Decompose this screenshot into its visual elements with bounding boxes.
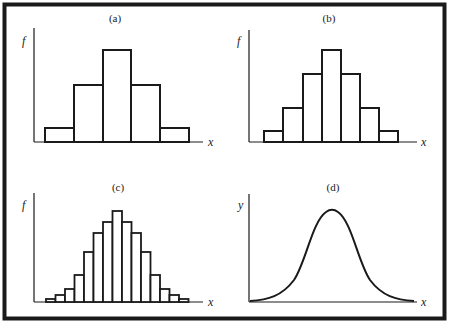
panel-d-xlabel: x (420, 295, 427, 309)
panel-b: (b) f x (237, 12, 427, 149)
histogram-bar (264, 131, 283, 142)
panel-b-bars (264, 50, 398, 142)
histogram-bar (141, 252, 151, 302)
panel-a-xlabel: x (207, 135, 214, 149)
histogram-bar (322, 50, 341, 142)
histogram-bar (131, 85, 160, 142)
figure-canvas: (a) f x (b) f x (c) f x (0, 0, 450, 325)
panel-b-ylabel: f (237, 34, 242, 48)
panel-a-title: (a) (109, 12, 122, 25)
panel-d-ylabel: y (237, 198, 244, 212)
panel-a: (a) f x (22, 12, 214, 149)
panel-b-xlabel: x (420, 135, 427, 149)
histogram-bar (283, 108, 303, 142)
histogram-bar (160, 289, 170, 302)
figure-frame (5, 5, 445, 319)
histogram-bar (46, 299, 56, 302)
histogram-bar (160, 128, 189, 142)
histogram-bar (341, 74, 360, 142)
histogram-bar (379, 131, 398, 142)
histogram-bar (74, 85, 103, 142)
histogram-bar (360, 108, 379, 142)
histogram-bar (151, 275, 161, 302)
panel-d: (d) y x (237, 181, 427, 309)
histogram-bar (65, 289, 75, 302)
histogram-bar (170, 295, 180, 302)
histogram-bar (94, 233, 104, 302)
histogram-bar (103, 50, 131, 142)
panel-c-ylabel: f (22, 198, 27, 212)
bell-curve (250, 210, 414, 301)
panel-c: (c) f x (22, 181, 214, 309)
histogram-bar (56, 295, 66, 302)
panel-a-bars (45, 50, 189, 142)
histogram-bar (179, 299, 189, 302)
panel-a-ylabel: f (22, 34, 27, 48)
panel-c-title: (c) (112, 181, 125, 194)
histogram-bar (75, 275, 85, 302)
histogram-bar (132, 233, 142, 302)
histogram-bar (303, 74, 322, 142)
panel-c-bars (46, 211, 189, 302)
histogram-bar (122, 222, 132, 302)
panel-b-title: (b) (323, 12, 336, 25)
histogram-bar (45, 128, 74, 142)
panel-d-title: (d) (327, 181, 340, 194)
panel-c-xlabel: x (207, 295, 214, 309)
histogram-bar (84, 252, 94, 302)
histogram-bar (103, 222, 113, 302)
histogram-bar (113, 211, 123, 302)
